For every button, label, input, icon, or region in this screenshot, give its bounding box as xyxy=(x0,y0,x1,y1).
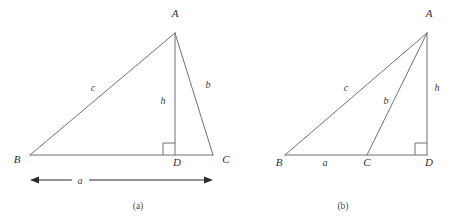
panel-b-side-label-a: a xyxy=(323,157,328,168)
triangle-altitude-figure: A B C D c h b a (a) xyxy=(0,0,457,221)
panel-a-dimension-arrow-left-icon xyxy=(30,177,39,184)
figure-container: A B C D c h b a (a) xyxy=(0,0,457,221)
panel-a-side-c-line xyxy=(30,33,175,155)
panel-b-caption: (b) xyxy=(337,201,348,212)
panel-b-right-angle-icon xyxy=(415,143,427,155)
panel-a-dimension-arrow-right-icon xyxy=(204,177,213,184)
panel-b-side-c-line xyxy=(285,33,427,155)
panel-a-side-label-c: c xyxy=(91,82,96,93)
panel-b-vertex-label-D: D xyxy=(424,156,433,168)
panel-a-vertex-label-D: D xyxy=(172,156,181,168)
panel-a-side-label-b: b xyxy=(206,79,211,90)
panel-a-vertex-label-C: C xyxy=(222,153,230,165)
panel-b-side-label-h: h xyxy=(435,82,440,93)
panel-b-side-b-line xyxy=(367,33,427,155)
panel-a-right-angle-icon xyxy=(163,143,175,155)
panel-a-side-label-h: h xyxy=(161,95,166,106)
panel-a-side-b-line xyxy=(175,33,213,155)
panel-a-caption: (a) xyxy=(133,201,144,212)
panel-b-vertex-label-B: B xyxy=(276,156,283,168)
panel-b-vertex-label-C: C xyxy=(363,156,371,168)
panel-b-vertex-label-A: A xyxy=(425,7,433,19)
panel-a-vertex-label-A: A xyxy=(171,7,179,19)
panel-a-vertex-label-B: B xyxy=(14,153,21,165)
panel-b-side-label-c: c xyxy=(344,82,349,93)
panel-b: A B C D c b h a (b) xyxy=(276,7,440,212)
panel-b-side-label-b: b xyxy=(384,95,389,106)
panel-a: A B C D c h b a (a) xyxy=(14,7,231,212)
panel-a-dimension-label-a: a xyxy=(78,175,83,186)
